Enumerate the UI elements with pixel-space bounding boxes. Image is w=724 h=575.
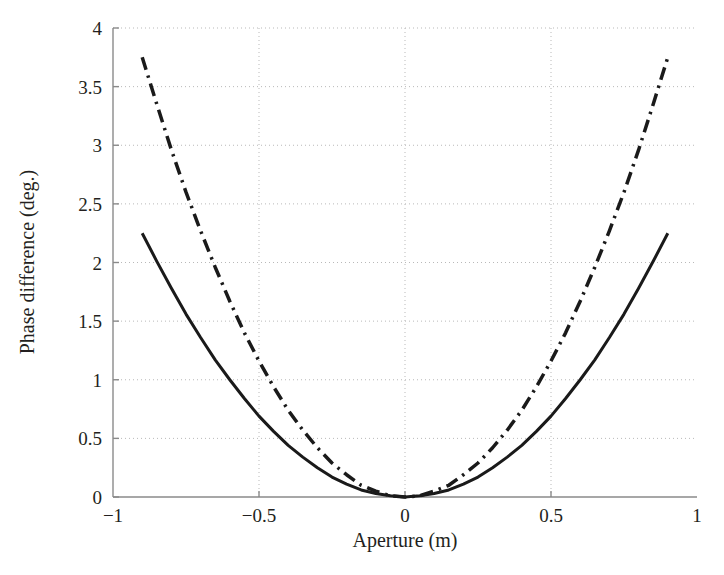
y-tick-label: 1 [93, 370, 103, 391]
y-tick-label: 2.5 [78, 194, 102, 215]
x-axis-title: Aperture (m) [353, 529, 458, 552]
x-tick-label: 0.5 [539, 505, 563, 526]
y-tick-label: 4 [93, 18, 103, 39]
x-tick-label: 0 [400, 505, 410, 526]
x-tick-label: −1 [103, 505, 123, 526]
y-tick-label: 1.5 [78, 311, 102, 332]
y-tick-label: 0.5 [78, 428, 102, 449]
x-tick-label: −0.5 [242, 505, 276, 526]
y-tick-label: 2 [93, 253, 103, 274]
y-tick-label: 0 [93, 487, 103, 508]
phase-difference-plot: −1−0.500.51 00.511.522.533.54 Aperture (… [0, 0, 724, 575]
figure-container: −1−0.500.51 00.511.522.533.54 Aperture (… [0, 0, 724, 575]
x-tick-label: 1 [692, 505, 702, 526]
y-tick-label: 3 [93, 135, 103, 156]
y-tick-label: 3.5 [78, 77, 102, 98]
y-axis-title: Phase difference (deg.) [16, 170, 39, 355]
